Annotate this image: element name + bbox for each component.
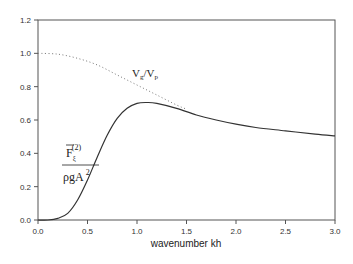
vg-main: V <box>132 67 140 79</box>
x-tick-label: 1.5 <box>181 227 193 236</box>
force-denominator: ρgA2 <box>63 168 90 184</box>
x-tick-label: 0.0 <box>32 227 44 236</box>
force-numerator: Fξ(2) <box>66 143 81 162</box>
x-tick-label: 3.0 <box>329 227 341 236</box>
y-tick-label: 0.0 <box>20 216 32 225</box>
y-tick-label: 0.4 <box>20 149 32 158</box>
x-tick-label: 1.0 <box>131 227 143 236</box>
vg-vp-annotation: Vg/Vp <box>132 67 158 81</box>
force-sub: ξ <box>73 154 76 162</box>
denominator-main: ρgA <box>63 170 84 184</box>
series-layer <box>38 53 335 220</box>
y-tick-label: 1.0 <box>20 49 32 58</box>
chart: 0.00.51.01.52.02.53.0 0.00.20.40.60.81.0… <box>0 0 353 264</box>
force-sup: (2) <box>72 143 82 152</box>
force-annotation: Fξ(2) ρgA2 <box>62 143 99 184</box>
y-tick-label: 1.2 <box>20 16 32 25</box>
y-axis-ticks: 0.00.20.40.60.81.01.2 <box>20 16 38 225</box>
vg-vp-dotted-line <box>38 53 187 109</box>
x-tick-label: 2.5 <box>280 227 292 236</box>
force-solid-line <box>38 102 335 220</box>
vp-main: V <box>147 67 155 79</box>
x-tick-label: 2.0 <box>230 227 242 236</box>
y-tick-label: 0.8 <box>20 83 32 92</box>
x-axis-label: wavenumber kh <box>150 238 222 249</box>
y-tick-label: 0.2 <box>20 183 32 192</box>
y-tick-label: 0.6 <box>20 116 32 125</box>
x-tick-label: 0.5 <box>82 227 94 236</box>
denominator-sup: 2 <box>86 168 90 177</box>
x-axis-ticks: 0.00.51.01.52.02.53.0 <box>32 220 341 236</box>
vp-sub: p <box>155 73 159 81</box>
